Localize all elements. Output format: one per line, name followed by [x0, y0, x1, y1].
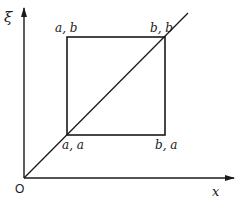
y-axis-label: ξ — [4, 8, 13, 26]
diagram-canvas: ξ x O a, b b, b a, a b, a — [0, 0, 240, 205]
corner-label-bottom-left: a, a — [62, 138, 84, 152]
x-axis-label: x — [212, 184, 220, 199]
corner-label-top-right: b, b — [150, 21, 173, 35]
corner-label-bottom-right: b, a — [155, 138, 177, 152]
corner-label-top-left: a, b — [55, 21, 77, 35]
origin-label: O — [15, 182, 24, 196]
